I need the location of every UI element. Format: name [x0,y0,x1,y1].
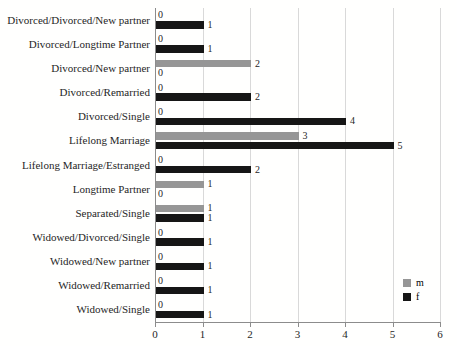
bar-chart-figure: 01012002043502101101010101 Divorced/Divo… [0,0,457,346]
x-axis-tick [250,323,251,327]
bar-f [156,21,204,29]
gridline [393,8,394,322]
x-axis-tick-label: 4 [342,328,348,341]
x-axis-tick [155,323,156,327]
value-label-m: 0 [158,154,163,166]
value-label-f: 5 [398,140,403,152]
value-label-m: 0 [158,106,163,118]
legend: m f [403,276,424,304]
bar-f [156,93,251,101]
bar-m [156,60,251,68]
category-label: Lifelong Marriage [0,134,150,147]
value-label-m: 1 [208,178,213,190]
category-label: Divorced/Remarried [0,86,150,99]
bar-f [156,142,394,150]
category-label: Widowed/Remarried [0,279,150,292]
value-label-m: 0 [158,9,163,21]
x-axis-tick [393,323,394,327]
category-label: Divorced/New partner [0,62,150,75]
x-axis-tick-label: 3 [295,328,301,341]
value-label-f: 4 [350,115,355,127]
value-label-f: 2 [255,164,260,176]
bar-f [156,45,204,53]
value-label-m: 0 [158,33,163,45]
gridline [440,8,441,322]
value-label-f: 0 [158,67,163,79]
legend-item-m: m [403,276,424,290]
value-label-f: 1 [208,260,213,272]
x-axis-tick-label: 2 [247,328,253,341]
x-axis-tick-label: 0 [152,328,158,341]
x-axis-tick [345,323,346,327]
bar-m [156,181,204,189]
x-axis-tick [440,323,441,327]
x-axis-tick [298,323,299,327]
bar-f [156,118,346,126]
value-label-f: 1 [208,43,213,55]
bar-f [156,214,204,222]
category-label: Widowed/New partner [0,255,150,268]
value-label-m: 0 [158,299,163,311]
value-label-f: 1 [208,284,213,296]
category-label: Longtime Partner [0,183,150,196]
bar-m [156,205,204,213]
value-label-m: 0 [158,275,163,287]
bar-f [156,311,204,319]
value-label-m: 0 [158,227,163,239]
x-axis-tick-label: 5 [390,328,396,341]
value-label-f: 0 [158,188,163,200]
category-label: Separated/Single [0,207,150,220]
bar-f [156,263,204,271]
legend-item-f: f [403,290,424,304]
bar-m [156,132,299,140]
category-label: Widowed/Single [0,303,150,316]
category-label: Lifelong Marriage/Estranged [0,159,150,172]
value-label-m: 3 [303,130,308,142]
gridline [345,8,346,322]
category-label: Divorced/Divorced/New partner [0,14,150,27]
legend-label-f: f [416,291,419,303]
bar-f [156,287,204,295]
x-axis-tick-label: 1 [200,328,206,341]
category-label: Divorced/Longtime Partner [0,38,150,51]
value-label-m: 0 [158,251,163,263]
x-axis-tick-label: 6 [437,328,443,341]
gridline [298,8,299,322]
value-label-m: 2 [255,58,260,70]
legend-label-m: m [416,277,424,289]
category-label: Widowed/Divorced/Single [0,231,150,244]
value-label-f: 1 [208,236,213,248]
legend-swatch-m-icon [403,279,411,287]
value-label-m: 0 [158,82,163,94]
legend-swatch-f-icon [403,293,411,301]
bar-f [156,238,204,246]
category-label: Divorced/Single [0,110,150,123]
bar-f [156,166,251,174]
value-label-f: 1 [208,19,213,31]
value-label-f: 2 [255,91,260,103]
value-label-f: 1 [208,309,213,321]
x-axis-tick [203,323,204,327]
value-label-f: 1 [208,212,213,224]
